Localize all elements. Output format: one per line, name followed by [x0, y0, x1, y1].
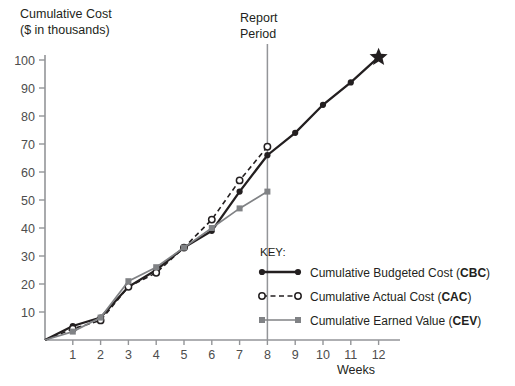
x-tick-label: 1 — [69, 348, 76, 362]
series-cac — [45, 144, 271, 340]
data-point-marker — [264, 189, 270, 195]
x-tick-label: 3 — [125, 348, 132, 362]
y-tick-label: 30 — [21, 250, 35, 264]
x-tick-label: 4 — [153, 348, 160, 362]
legend-label: Cumulative Earned Value (CEV) — [310, 314, 481, 328]
data-point-marker — [320, 102, 326, 108]
data-point-marker — [259, 317, 265, 323]
y-axis-ticks — [39, 60, 45, 312]
data-point-marker — [237, 205, 243, 211]
data-point-marker — [236, 177, 242, 183]
y-tick-label: 60 — [21, 166, 35, 180]
y-tick-label: 10 — [21, 306, 35, 320]
data-point-marker — [264, 152, 270, 158]
x-axis-tick-labels: 123456789101112 — [69, 348, 385, 362]
x-tick-label: 8 — [264, 348, 271, 362]
y-tick-label: 80 — [21, 110, 35, 124]
legend-entry-cev: Cumulative Earned Value (CEV) — [259, 314, 481, 328]
x-tick-label: 2 — [97, 348, 104, 362]
x-tick-label: 10 — [316, 348, 330, 362]
x-tick-label: 11 — [344, 348, 357, 362]
y-tick-label: 100 — [14, 54, 35, 68]
data-point-marker — [259, 293, 265, 299]
legend-label: Cumulative Actual Cost (CAC) — [310, 290, 471, 304]
report-period-label-line2: Period — [240, 27, 276, 41]
data-point-marker — [209, 216, 215, 222]
data-point-marker — [295, 269, 301, 275]
legend-entries: Cumulative Budgeted Cost (CBC)Cumulative… — [259, 266, 490, 328]
y-axis-tick-labels: 102030405060708090100 — [14, 54, 35, 320]
x-tick-label: 6 — [208, 348, 215, 362]
chart-canvas: 102030405060708090100 123456789101112 Cu… — [0, 0, 515, 386]
data-point-marker — [292, 130, 298, 136]
data-point-marker — [125, 278, 131, 284]
legend-entry-cac: Cumulative Actual Cost (CAC) — [259, 290, 472, 304]
legend-title: KEY: — [260, 246, 286, 258]
series-line — [45, 147, 267, 340]
data-point-marker — [70, 329, 76, 335]
data-point-marker — [295, 317, 301, 323]
y-tick-label: 40 — [21, 222, 35, 236]
y-axis-title-line1: Cumulative Cost — [20, 7, 112, 21]
data-point-marker — [98, 315, 104, 321]
legend-entry-cbc: Cumulative Budgeted Cost (CBC) — [259, 266, 490, 280]
y-tick-label: 70 — [21, 138, 35, 152]
y-tick-label: 90 — [21, 82, 35, 96]
data-point-marker — [295, 293, 301, 299]
data-point-marker — [348, 79, 354, 85]
data-point-marker — [153, 270, 159, 276]
x-tick-label: 7 — [236, 348, 243, 362]
earned-value-chart: 102030405060708090100 123456789101112 Cu… — [0, 0, 515, 386]
data-point-marker — [264, 144, 270, 150]
y-tick-label: 20 — [21, 278, 35, 292]
data-point-marker — [153, 264, 159, 270]
x-tick-label: 5 — [181, 348, 188, 362]
data-point-marker — [209, 225, 215, 231]
x-tick-label: 12 — [372, 348, 386, 362]
series-cev — [45, 189, 270, 340]
legend: KEY: Cumulative Budgeted Cost (CBC)Cumul… — [259, 246, 490, 328]
data-point-marker — [237, 189, 243, 195]
legend-label: Cumulative Budgeted Cost (CBC) — [310, 266, 490, 280]
data-point-marker — [181, 245, 187, 251]
report-period-label-line1: Report — [240, 11, 278, 25]
y-axis-title-line2: ($ in thousands) — [20, 23, 110, 37]
data-point-marker — [259, 269, 265, 275]
x-axis-title: Weeks — [337, 363, 375, 377]
x-tick-label: 9 — [292, 348, 299, 362]
y-tick-label: 50 — [21, 194, 35, 208]
